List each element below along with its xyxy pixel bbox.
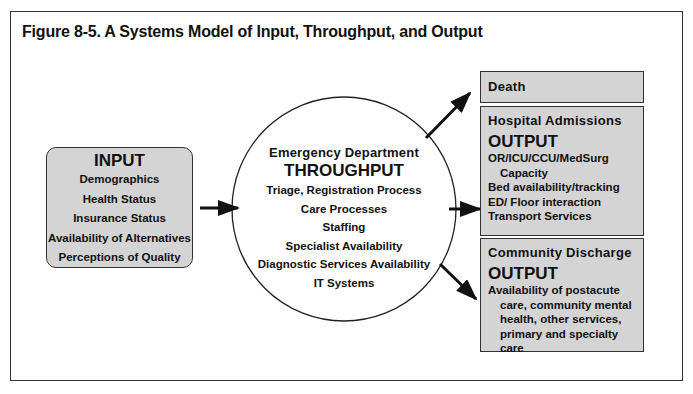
- input-heading: INPUT: [47, 151, 192, 170]
- throughput-to-death-arrow: [426, 93, 470, 138]
- output-item: care, community mental: [488, 298, 643, 313]
- throughput-item: Diagnostic Services Availability: [232, 255, 456, 274]
- input-item: Perceptions of Quality: [47, 248, 192, 268]
- throughput-item: Staffing: [232, 218, 456, 237]
- output-item: Transport Services: [488, 209, 643, 224]
- community-discharge-label: Community Discharge: [488, 245, 643, 261]
- input-box: INPUT Demographics Health Status Insuran…: [46, 147, 193, 268]
- throughput-item: Triage, Registration Process: [232, 181, 456, 200]
- throughput-subtitle: Emergency Department: [232, 145, 456, 161]
- output-item: Capacity: [488, 166, 643, 181]
- input-item: Insurance Status: [47, 209, 192, 229]
- hospital-admissions-heading: OUTPUT: [488, 132, 643, 151]
- hospital-admissions-label: Hospital Admissions: [488, 113, 643, 129]
- throughput-item: Specialist Availability: [232, 237, 456, 256]
- output-item: Availability of postacute: [488, 283, 643, 298]
- throughput-heading: THROUGHPUT: [232, 161, 456, 181]
- input-item: Health Status: [47, 190, 192, 210]
- input-item: Demographics: [47, 170, 192, 190]
- community-discharge-box: Community Discharge OUTPUT Availability …: [480, 238, 644, 352]
- death-label: Death: [488, 79, 643, 95]
- input-item: Availability of Alternatives: [47, 229, 192, 249]
- community-discharge-heading: OUTPUT: [488, 264, 643, 283]
- throughput-item: IT Systems: [232, 274, 456, 293]
- output-item: OR/ICU/CCU/MedSurg: [488, 151, 643, 166]
- throughput-content: Emergency Department THROUGHPUT Triage, …: [232, 145, 456, 292]
- output-item: primary and specialty care: [488, 327, 643, 356]
- throughput-item: Care Processes: [232, 200, 456, 219]
- output-item: Bed availability/tracking: [488, 180, 643, 195]
- hospital-admissions-box: Hospital Admissions OUTPUT OR/ICU/CCU/Me…: [480, 106, 644, 236]
- death-box: Death: [480, 71, 644, 103]
- output-item: health, other services,: [488, 312, 643, 327]
- output-item: ED/ Floor interaction: [488, 195, 643, 210]
